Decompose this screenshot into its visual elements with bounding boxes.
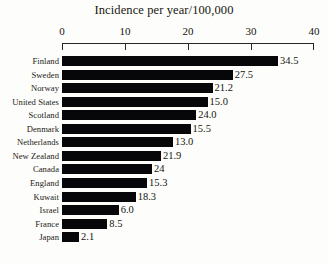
bar (62, 124, 191, 134)
bar (62, 110, 196, 120)
bar-value-label: 15.3 (149, 176, 167, 189)
bar-row: United States15.0 (0, 96, 328, 110)
bar (62, 178, 147, 188)
bar-value-label: 13.0 (175, 135, 193, 148)
bar-row: Netherlands13.0 (0, 136, 328, 150)
bar-category-label: Netherlands (1, 136, 59, 148)
bar-value-label: 2.1 (81, 230, 94, 243)
bar-value-label: 8.5 (109, 217, 122, 230)
bar-row: New Zealand21.9 (0, 150, 328, 164)
bar-category-label: Denmark (1, 123, 59, 135)
bar-row: Japan2.1 (0, 231, 328, 245)
x-axis-tick-label: 40 (309, 25, 320, 37)
bar-row: Finland34.5 (0, 55, 328, 69)
bar-value-label: 27.5 (235, 68, 253, 81)
bar-chart-figure: Incidence per year/100,000 010203040 Fin… (0, 0, 328, 264)
bar-category-label: United States (1, 96, 59, 108)
bar-value-label: 15.0 (210, 95, 228, 108)
bar-value-label: 18.3 (138, 190, 156, 203)
bar-row: Denmark15.5 (0, 123, 328, 137)
bar-value-label: 34.5 (280, 54, 298, 67)
bar (62, 164, 152, 174)
bar (62, 97, 208, 107)
bar-row: Israel6.0 (0, 204, 328, 218)
bar (62, 70, 233, 80)
bar-category-label: Israel (1, 204, 59, 216)
bar-value-label: 21.2 (215, 81, 233, 94)
bar-category-label: Scotland (1, 109, 59, 121)
bar (62, 219, 107, 229)
bar (62, 56, 278, 66)
bar-category-label: Canada (1, 163, 59, 175)
chart-title: Incidence per year/100,000 (0, 3, 328, 18)
x-axis: 010203040 (0, 25, 328, 53)
x-axis-tick-mark (62, 43, 63, 50)
bar-value-label: 15.5 (193, 122, 211, 135)
bar-row: Norway21.2 (0, 82, 328, 96)
bar-category-label: Japan (1, 231, 59, 243)
bar-row: Canada24 (0, 163, 328, 177)
x-axis-tick-mark (125, 43, 126, 50)
bar-category-label: England (1, 177, 59, 189)
bar (62, 192, 136, 202)
bar-value-label: 21.9 (163, 149, 181, 162)
bar (62, 137, 173, 147)
bar-row: France8.5 (0, 218, 328, 232)
bar-row: Kuwait18.3 (0, 191, 328, 205)
bar-row: Scotland24.0 (0, 109, 328, 123)
bar (62, 232, 79, 242)
bar (62, 151, 161, 161)
bar-category-label: Sweden (1, 69, 59, 81)
plot-area: Finland34.5Sweden27.5Norway21.2United St… (0, 55, 328, 245)
x-axis-tick-label: 20 (183, 25, 194, 37)
bar-category-label: New Zealand (1, 150, 59, 162)
bar-category-label: Norway (1, 82, 59, 94)
bar-category-label: Finland (1, 55, 59, 67)
x-axis-tick-mark (251, 43, 252, 50)
x-axis-tick-label: 30 (246, 25, 257, 37)
x-axis-tick-label: 0 (59, 25, 65, 37)
x-axis-tick-mark (188, 43, 189, 50)
bar-category-label: France (1, 218, 59, 230)
x-axis-tick-mark (313, 43, 314, 50)
bar-value-label: 24 (154, 162, 165, 175)
x-axis-tick-label: 10 (120, 25, 131, 37)
bar-category-label: Kuwait (1, 191, 59, 203)
bar-value-label: 24.0 (198, 108, 216, 121)
bar-row: England15.3 (0, 177, 328, 191)
bar-value-label: 6.0 (121, 203, 134, 216)
bar (62, 83, 213, 93)
bar (62, 205, 119, 215)
bar-row: Sweden27.5 (0, 69, 328, 83)
